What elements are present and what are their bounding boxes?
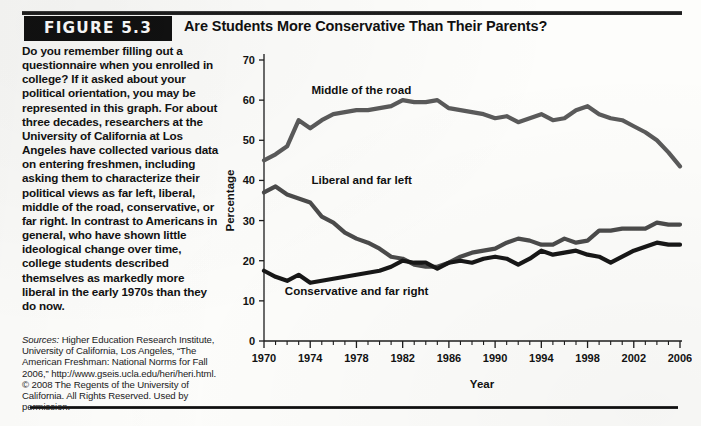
chart-canvas: 010203040506070 197019741978198219861990… xyxy=(222,44,692,404)
y-tick-label: 20 xyxy=(243,255,255,267)
line-chart: 010203040506070 197019741978198219861990… xyxy=(222,44,692,404)
y-axis-title: Percentage xyxy=(224,169,236,231)
sources-text: Higher Education Research Institute, Uni… xyxy=(22,334,216,412)
bottom-divider-rule xyxy=(30,406,678,409)
figure-title: Are Students More Conservative Than Thei… xyxy=(184,18,547,34)
figure-page: FIGURE 5.3 Are Students More Conservativ… xyxy=(0,0,701,426)
y-axis-ticks: 010203040506070 xyxy=(243,54,264,347)
figure-body-text-column: Do you remember filling out a questionna… xyxy=(22,44,219,313)
x-tick-label: 1994 xyxy=(529,352,554,364)
y-tick-label: 10 xyxy=(243,295,255,307)
y-tick-label: 0 xyxy=(249,335,255,347)
series-line xyxy=(264,100,680,166)
x-tick-label: 2002 xyxy=(622,352,646,364)
chart-series-group xyxy=(264,100,680,283)
figure-number-label: FIGURE 5.3 xyxy=(23,16,174,41)
sources-label: Sources: xyxy=(22,334,59,345)
series-label: Middle of the road xyxy=(311,83,411,96)
x-tick-label: 1998 xyxy=(575,352,599,364)
x-tick-label: 2006 xyxy=(668,352,692,364)
series-line xyxy=(264,243,680,283)
x-tick-label: 1974 xyxy=(298,352,323,364)
series-line xyxy=(264,186,680,266)
figure-sources-note: Sources: Higher Education Research Insti… xyxy=(22,334,225,412)
y-tick-label: 40 xyxy=(243,174,255,186)
chart-series-labels: Middle of the roadLiberal and far leftCo… xyxy=(285,83,429,297)
x-tick-label: 1990 xyxy=(483,352,507,364)
x-axis-title: Year xyxy=(470,378,495,390)
figure-body-paragraph: Do you remember filling out a questionna… xyxy=(22,44,219,313)
series-label: Liberal and far left xyxy=(311,173,412,186)
x-tick-label: 1982 xyxy=(390,352,414,364)
series-label: Conservative and far right xyxy=(285,284,429,297)
y-tick-label: 60 xyxy=(243,94,255,106)
figure-number-tag: FIGURE 5.3 xyxy=(24,16,172,41)
y-tick-label: 50 xyxy=(243,134,255,146)
y-tick-label: 30 xyxy=(243,215,255,227)
x-tick-label: 1978 xyxy=(344,352,368,364)
x-tick-label: 1986 xyxy=(437,352,461,364)
y-tick-label: 70 xyxy=(243,54,255,66)
top-divider-rule xyxy=(22,11,682,15)
x-tick-label: 1970 xyxy=(252,352,276,364)
